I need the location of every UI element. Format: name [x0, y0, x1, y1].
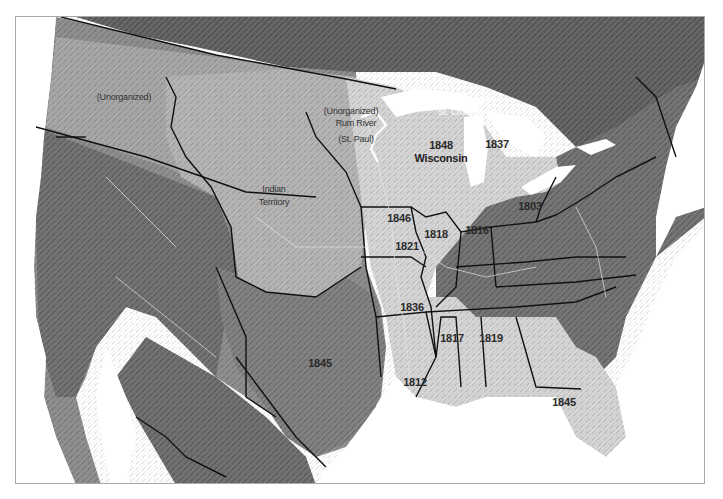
- label-alabama-year: 1819: [479, 332, 503, 344]
- label-unorganized-west: (Unorganized): [97, 92, 151, 102]
- label-indiana-year: 1816: [465, 224, 489, 236]
- label-st-paul: (St. Paul): [338, 134, 374, 144]
- relief-map: [16, 17, 705, 484]
- map-frame: (Unorganized) (Unorganized) Indian Terri…: [15, 16, 705, 484]
- label-arkansas-year: 1836: [400, 301, 424, 313]
- label-ohio-year: 1803: [518, 200, 542, 212]
- label-louisiana-year: 1812: [403, 376, 427, 388]
- label-mississippi-year: 1817: [440, 332, 464, 344]
- label-rum-river: Rum River: [336, 118, 377, 128]
- label-wisconsin-year: 1848: [429, 139, 453, 151]
- label-st-louis-river: St. Louis River: [438, 93, 494, 103]
- label-missouri-year: 1821: [395, 240, 419, 252]
- label-unorganized-minnesota: (Unorganized): [324, 106, 378, 116]
- label-iowa-year: 1846: [387, 212, 411, 224]
- label-michigan-year: 1837: [485, 138, 509, 150]
- label-texas-year: 1845: [308, 357, 332, 369]
- label-florida-year: 1845: [552, 396, 576, 408]
- label-illinois-year: 1818: [424, 228, 448, 240]
- label-indian-line1: Indian: [262, 184, 285, 194]
- label-wisconsin-name: Wisconsin: [414, 152, 467, 164]
- label-indian-line2: Territory: [259, 197, 290, 207]
- label-st-croix-river: St. Croix River: [438, 107, 493, 117]
